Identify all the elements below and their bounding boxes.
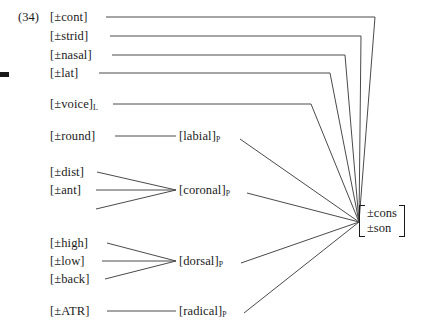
edge-high-to-dorsal [107,243,176,261]
feature-label-back: [±back] [50,273,89,286]
feature-label-atr: [±ATR] [50,305,89,318]
edge-lat-to-root [99,73,359,222]
example-number: (34) [18,11,39,24]
edge-lower-to-coronal [96,190,176,209]
place-node-dorsal: [dorsal]P [179,255,223,268]
radical-subscript: P [222,310,226,319]
feature-label-nasal: [±nasal] [50,49,92,62]
edge-coronal-to-root [247,193,359,222]
place-node-radical: [radical]P [179,305,227,318]
edge-labial-to-root [240,139,359,222]
feature-label-round: [±round] [50,130,95,143]
edge-radical-to-root [244,222,359,313]
bracket-right [399,205,405,237]
feature-label-voice: [±voice]L [50,98,98,111]
edge-cont-to-root [106,17,375,222]
place-node-labial: [labial]P [179,130,220,143]
feature-label-strid: [±strid] [50,30,88,43]
feature-label-dist: [±dist] [50,166,84,179]
feature-label-lat: [±lat] [50,67,78,80]
root-feature-cons: ±cons [367,206,397,221]
dorsal-subscript: P [219,260,223,269]
edge-dorsal-to-root [241,222,359,263]
edge-voice-to-root [113,104,359,222]
feature-label-cont: [±cont] [50,11,87,24]
place-node-coronal: [coronal]P [179,184,230,197]
root-node-feature-matrix: ±cons ±son [359,205,405,237]
root-feature-son: ±son [367,221,397,236]
feature-geometry-diagram: (34) [ [0,0,425,333]
feature-label-ant: [±ant] [50,184,81,197]
feature-label-low: [±low] [50,255,85,268]
labial-subscript: P [216,135,220,144]
coronal-subscript: P [226,189,230,198]
edge-back-to-dorsal [105,261,176,279]
voice-subscript: L [93,103,98,112]
edge-strid-to-root [110,36,361,222]
feature-label-high: [±high] [50,237,88,250]
edge-dist-to-coronal [97,172,176,190]
edge-nasal-to-root [112,55,359,222]
margin-mark [0,72,9,77]
root-node-rows: ±cons ±son [365,205,399,237]
